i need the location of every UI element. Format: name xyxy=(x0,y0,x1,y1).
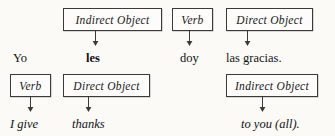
label-box-indirect-object-top: Indirect Object xyxy=(63,8,162,31)
word-text: thanks xyxy=(72,117,105,131)
english-word-i-give: I give xyxy=(10,118,38,131)
word-text: doy xyxy=(180,51,199,65)
word-text: las gracias. xyxy=(226,51,282,65)
label-text: Indirect Object xyxy=(75,14,149,26)
label-box-indirect-object-bottom: Indirect Object xyxy=(226,74,318,97)
arrow-down-icon-indirect-object-bottom xyxy=(259,97,266,112)
grammar-diagram: Indirect Object Verb Direct Object Yo le… xyxy=(0,0,335,136)
label-box-verb-top: Verb xyxy=(172,8,213,31)
label-box-direct-object-top: Direct Object xyxy=(226,8,313,31)
spanish-word-las-gracias: las gracias. xyxy=(226,52,282,65)
arrow-down-icon-direct-object-bottom xyxy=(85,97,92,112)
word-text: I give xyxy=(10,117,38,131)
word-text: les xyxy=(86,51,100,65)
label-text: Verb xyxy=(19,80,41,92)
label-text: Direct Object xyxy=(73,80,139,92)
english-word-thanks: thanks xyxy=(72,118,105,131)
arrow-down-icon-indirect-object-top xyxy=(92,31,99,46)
label-text: Direct Object xyxy=(236,14,302,26)
arrow-down-icon-direct-object-top xyxy=(244,31,251,46)
label-text: Indirect Object xyxy=(235,80,309,92)
arrow-down-icon-verb-bottom xyxy=(27,97,34,112)
label-box-verb-bottom: Verb xyxy=(10,74,51,97)
arrow-down-icon-verb-top xyxy=(186,31,193,46)
spanish-word-les: les xyxy=(86,52,100,65)
label-text: Verb xyxy=(181,14,203,26)
word-text: Yo xyxy=(13,51,27,65)
word-text: to you (all). xyxy=(241,117,300,131)
english-word-to-you-all: to you (all). xyxy=(241,118,300,131)
label-box-direct-object-bottom: Direct Object xyxy=(63,74,150,97)
spanish-word-doy: doy xyxy=(180,52,199,65)
spanish-word-yo: Yo xyxy=(13,52,27,65)
